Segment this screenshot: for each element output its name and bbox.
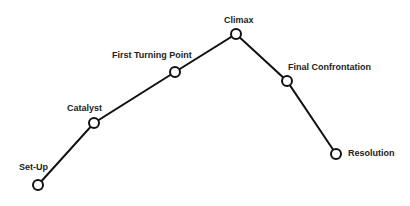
label-set-up: Set-Up (19, 163, 48, 172)
node-circle (331, 149, 341, 159)
node-circle (231, 29, 241, 39)
node-circle (170, 67, 180, 77)
node-circle (282, 76, 292, 86)
label-catalyst: Catalyst (67, 104, 102, 113)
label-first-turning-point: First Turning Point (112, 51, 192, 60)
label-final-confrontation: Final Confrontation (288, 63, 371, 72)
plot-diagram (0, 0, 410, 206)
node-circle (33, 180, 43, 190)
node-circle (89, 118, 99, 128)
label-resolution: Resolution (348, 149, 395, 158)
label-climax: Climax (224, 16, 254, 25)
